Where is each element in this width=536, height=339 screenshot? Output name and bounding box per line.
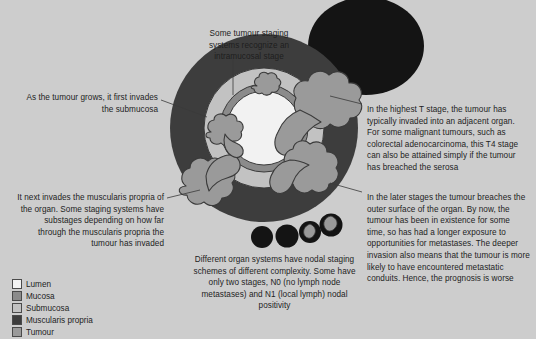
lymph-node-positive — [299, 221, 321, 243]
legend-item-muscularis-propria: Muscularis propria — [12, 315, 93, 326]
legend-label-mucosa: Mucosa — [26, 292, 55, 301]
callout-highest-t-stage: In the highest T stage, the tumour has t… — [367, 104, 527, 174]
figure-canvas: Some tumour staging systems recognize an… — [0, 0, 536, 339]
legend-item-tumour: Tumour — [12, 327, 93, 338]
legend-label-lumen: Lumen — [26, 280, 51, 289]
legend: Lumen Mucosa Submucosa Muscularis propri… — [12, 279, 93, 339]
legend-swatch-lumen — [12, 279, 22, 289]
callout-nodal-staging: Different organ systems have nodal stagi… — [192, 254, 357, 312]
legend-swatch-tumour — [12, 327, 22, 337]
legend-item-mucosa: Mucosa — [12, 291, 93, 302]
lymph-node-positive — [320, 214, 343, 237]
callout-submucosa-invasion: As the tumour grows, it first invades th… — [24, 92, 158, 115]
legend-label-muscularis-propria: Muscularis propria — [26, 316, 93, 325]
lymph-node-negative — [276, 225, 299, 248]
legend-item-submucosa: Submucosa — [12, 303, 93, 314]
callout-later-stages: In the later stages the tumour breaches … — [367, 192, 530, 285]
legend-swatch-submucosa — [12, 303, 22, 313]
callout-intramucosal-stage: Some tumour staging systems recognize an… — [194, 28, 304, 63]
callout-muscularis-propria: It next invades the muscularis propria o… — [14, 192, 164, 250]
legend-swatch-muscularis-propria — [12, 315, 22, 325]
lymph-node-negative — [251, 226, 273, 248]
legend-item-lumen: Lumen — [12, 279, 93, 290]
legend-swatch-mucosa — [12, 291, 22, 301]
legend-label-submucosa: Submucosa — [26, 304, 69, 313]
legend-label-tumour: Tumour — [26, 328, 54, 337]
